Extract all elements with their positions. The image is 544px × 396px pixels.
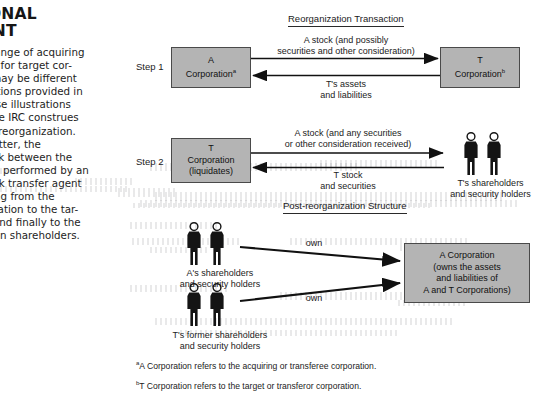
person-silhouette-icon <box>208 222 226 266</box>
post-reorg-t-former-shareholders-label: T's former shareholders and security hol… <box>140 330 300 352</box>
box-a-corporation-post-reorg: A Corporation (owns the assets and liabi… <box>404 243 530 303</box>
chapter-title: IONAL ENT <box>0 6 132 40</box>
box-line-2: Corporation <box>186 69 233 79</box>
arrow-own-top <box>240 247 400 261</box>
box-line-1: T <box>208 143 214 153</box>
footnote-b: bT Corporation refers to the target or t… <box>136 380 361 391</box>
step1-bottom-arrow-label: T's assets and liabilities <box>286 79 406 101</box>
people-t-shareholders-step2 <box>462 132 503 176</box>
step2-right-actor-label: T's shareholders and security holders <box>437 178 544 200</box>
step2-top-arrow-label: A stock (and any securities or other con… <box>268 128 428 150</box>
own-label-top: own <box>294 238 334 249</box>
person-silhouette-icon <box>485 132 503 176</box>
box-a-corporation-step1: ACorporationa <box>171 47 251 88</box>
footnote-a: aA Corporation refers to the acquiring o… <box>136 360 376 371</box>
step-1-label: Step 1 <box>136 61 163 72</box>
box-t-corporation-step2: TCorporation(liquidates) <box>171 138 251 183</box>
box-line-1: T <box>477 55 483 65</box>
box-line-1: A <box>208 55 214 65</box>
step1-top-arrow-label: A stock (and possibly securities and oth… <box>266 35 426 57</box>
footnote-b-text: T Corporation refers to the target or tr… <box>139 381 361 391</box>
scan-artifact <box>320 160 440 167</box>
box-line-3: (liquidates) <box>189 166 233 176</box>
heading-reorganization-transaction: Reorganization Transaction <box>288 13 404 27</box>
box-line-2: Corporation <box>455 69 502 79</box>
person-silhouette-icon <box>208 283 226 327</box>
step2-bottom-arrow-label: T stock and securities <box>288 170 408 192</box>
person-silhouette-icon <box>462 132 480 176</box>
footnote-a-text: A Corporation refers to the acquiring or… <box>139 361 376 371</box>
step-2-label: Step 2 <box>136 156 163 167</box>
own-label-bottom: own <box>294 293 334 304</box>
footnote-marker-b: b <box>502 68 505 74</box>
people-t-former-shareholders <box>185 283 226 327</box>
box-t-corporation-step1: TCorporationb <box>440 47 520 88</box>
article-body-text: exchange of acquiring stock for target c… <box>0 46 132 242</box>
footnote-marker-a: a <box>233 68 236 74</box>
heading-post-reorganization-structure: Post-reorganization Structure <box>283 200 407 214</box>
person-silhouette-icon <box>185 283 203 327</box>
person-silhouette-icon <box>185 222 203 266</box>
article-text-column: IONAL ENT exchange of acquiring stock fo… <box>0 0 132 396</box>
box-line-2: Corporation <box>187 155 234 165</box>
people-a-shareholders <box>185 222 226 266</box>
